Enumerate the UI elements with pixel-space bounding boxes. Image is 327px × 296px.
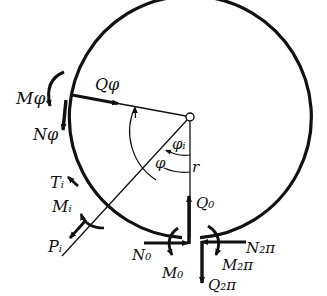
label-phi: φ [155,154,166,172]
label-n-phi: Nφ [32,125,59,144]
label-m-phi: Mφ [15,88,45,108]
label-n-2pi: N₂π [245,239,276,257]
q-phi-arrow [72,95,118,104]
label-q-phi: Qφ [95,75,120,94]
label-m-i: Mᵢ [51,197,72,216]
label-p-i: Pᵢ [47,237,62,256]
center-point [186,113,194,121]
m-phi-moment-arrow [49,72,64,106]
label-n-0: N₀ [131,246,151,264]
t-i-arrow [68,177,78,186]
angle-arc-phi [164,168,190,172]
label-m-2pi: M₂π [221,256,254,274]
label-q-2pi: Q₂π [208,276,237,294]
n-phi-arrow [63,100,66,130]
angle-arc-phi-large [130,107,156,180]
p-i-arrow [70,220,86,238]
label-t-i: Tᵢ [50,173,64,192]
label-q-0: Q₀ [196,194,214,212]
label-phi-i: φᵢ [172,135,186,153]
label-r: r [192,158,200,176]
ring-free-body-diagram: Mφ Qφ Nφ Tᵢ Mᵢ Pᵢ φᵢ φ r Q₀ N₀ M₀ N₂π M₂… [0,0,327,296]
label-m-0: M₀ [161,264,183,282]
